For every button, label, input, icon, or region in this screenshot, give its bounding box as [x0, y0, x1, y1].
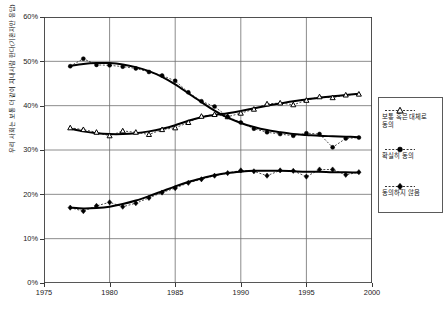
- data-point: [94, 130, 99, 135]
- data-point: [94, 63, 98, 67]
- data-point: [133, 130, 138, 135]
- data-point: [317, 94, 322, 99]
- x-tick-label: 2000: [352, 288, 392, 297]
- series-1: [68, 57, 361, 150]
- series-0: [68, 92, 362, 138]
- y-tick-label: 50%: [8, 57, 38, 66]
- data-point: [225, 170, 229, 175]
- data-point: [291, 134, 295, 138]
- legend-point: [398, 147, 403, 152]
- x-tick-mark: [241, 283, 242, 287]
- data-point: [357, 136, 361, 140]
- legend-marker-svg: [379, 181, 444, 192]
- chart-svg: [44, 17, 372, 283]
- data-point: [107, 200, 111, 205]
- legend-marker: [379, 178, 444, 189]
- data-point: [265, 101, 270, 106]
- data-point: [108, 63, 112, 67]
- legend-marker: [379, 141, 444, 152]
- y-tick-mark: [40, 61, 44, 62]
- data-point: [121, 65, 125, 69]
- x-tick-mark: [372, 283, 373, 287]
- data-point: [291, 168, 295, 173]
- data-point: [265, 173, 269, 178]
- y-tick-label: 10%: [8, 234, 38, 243]
- legend-entry: 보통 혹은 대체로 동의: [379, 102, 444, 130]
- data-point: [265, 130, 269, 134]
- legend-marker-svg: [379, 105, 444, 116]
- data-point: [291, 102, 296, 107]
- data-point: [239, 121, 243, 125]
- y-tick-mark: [40, 106, 44, 107]
- x-tick-mark: [175, 283, 176, 287]
- y-tick-label: 60%: [8, 12, 38, 21]
- data-point: [252, 127, 256, 131]
- data-point: [304, 131, 308, 135]
- chart-legend: 보통 혹은 대체로 동의확실히 동의동의하지 않음: [378, 97, 443, 213]
- data-point: [81, 127, 86, 132]
- x-tick-label: 1985: [155, 288, 195, 297]
- data-point: [318, 132, 322, 136]
- data-point: [68, 64, 72, 68]
- x-tick-label: 1980: [90, 288, 130, 297]
- y-tick-mark: [40, 17, 44, 18]
- y-tick-label: 30%: [8, 145, 38, 154]
- data-point: [199, 99, 203, 103]
- data-point: [356, 92, 361, 97]
- data-point: [199, 114, 204, 119]
- legend-entry: 확실히 동의: [379, 141, 444, 160]
- legend-entry: 동의하지 않음: [379, 178, 444, 197]
- plot-area: [44, 17, 372, 283]
- data-point: [212, 173, 216, 178]
- y-tick-label: 0%: [8, 278, 38, 287]
- y-tick-mark: [40, 239, 44, 240]
- x-tick-mark: [306, 283, 307, 287]
- data-point: [134, 66, 138, 70]
- x-tick-mark: [110, 283, 111, 287]
- legend-point: [397, 107, 403, 113]
- legend-marker-svg: [379, 144, 444, 155]
- data-point: [68, 125, 73, 130]
- data-point: [81, 57, 85, 61]
- y-tick-mark: [40, 194, 44, 195]
- series-trend-curve: [70, 63, 359, 137]
- x-tick-label: 1995: [286, 288, 326, 297]
- data-point: [160, 74, 164, 78]
- data-point: [357, 170, 361, 175]
- x-tick-mark: [44, 283, 45, 287]
- data-point: [120, 128, 125, 133]
- data-point: [343, 92, 348, 97]
- data-point: [147, 70, 151, 74]
- data-point: [173, 79, 177, 83]
- data-point: [278, 132, 282, 136]
- y-tick-label: 40%: [8, 101, 38, 110]
- x-tick-label: 1975: [24, 288, 64, 297]
- data-point: [186, 90, 190, 94]
- data-point: [278, 100, 283, 105]
- data-point: [226, 115, 230, 119]
- x-tick-label: 1990: [221, 288, 261, 297]
- legend-marker: [379, 102, 444, 113]
- data-point: [278, 168, 282, 173]
- y-tick-label: 20%: [8, 190, 38, 199]
- legend-point: [397, 183, 402, 190]
- data-point: [331, 145, 335, 149]
- series-2: [68, 167, 361, 214]
- y-tick-mark: [40, 150, 44, 151]
- data-point: [68, 205, 72, 210]
- data-point: [344, 136, 348, 140]
- data-point: [252, 169, 256, 174]
- data-point: [304, 174, 308, 179]
- data-point: [213, 105, 217, 109]
- chart-figure: 우리 사회는 보통 더 같이 지내사람 한다(기혼자만 응답) 0%10%20%…: [0, 0, 444, 313]
